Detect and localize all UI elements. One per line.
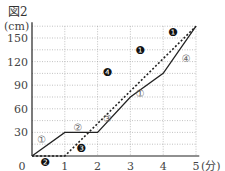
y-tick-label: 120 bbox=[7, 56, 28, 69]
x-axis-label: (分) bbox=[201, 160, 221, 171]
line-chart: 012345(分)306090120150(cm)①②③①④❷❸❹❶❶ bbox=[0, 0, 225, 171]
series-solid-line bbox=[32, 26, 196, 156]
annotation-marker: ❸ bbox=[76, 142, 86, 155]
annotation-marker: ❷ bbox=[40, 156, 50, 169]
annotation-marker: ④ bbox=[182, 53, 191, 64]
annotation-marker: ❶ bbox=[135, 44, 145, 57]
series-dashed-line bbox=[32, 26, 196, 156]
y-tick-label: 150 bbox=[7, 32, 28, 45]
x-tick-label: 0 bbox=[19, 160, 26, 171]
annotation-marker: ③ bbox=[103, 113, 112, 124]
y-tick-label: 90 bbox=[14, 79, 28, 92]
x-tick-label: 3 bbox=[127, 160, 134, 171]
annotation-marker: ① bbox=[136, 88, 145, 99]
x-tick-label: 5 bbox=[193, 160, 200, 171]
annotation-marker: ❹ bbox=[103, 66, 113, 79]
x-tick-label: 1 bbox=[61, 160, 68, 171]
annotation-marker: ❶ bbox=[168, 26, 178, 39]
y-axis-label: (cm) bbox=[4, 20, 29, 33]
y-tick-label: 60 bbox=[14, 103, 28, 116]
x-tick-label: 4 bbox=[160, 160, 167, 171]
x-tick-label: 2 bbox=[94, 160, 101, 171]
annotation-marker: ① bbox=[37, 134, 46, 145]
annotation-marker: ② bbox=[73, 122, 82, 133]
y-tick-label: 30 bbox=[14, 126, 28, 139]
